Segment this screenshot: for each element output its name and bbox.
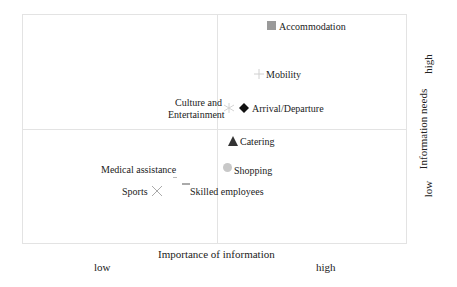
accommodation-label: Accommodation [279,21,346,32]
shopping-label: Shopping [234,165,272,176]
mobility-label: Mobility [266,69,301,80]
catering-label: Catering [240,136,274,147]
culture-label-line1: Culture and [175,97,222,108]
x-axis-low-tick: low [94,261,111,273]
sports-label: Sports [122,186,148,197]
arrival-diamond-marker [239,103,249,113]
medical-label: Medical assistance [101,164,176,175]
culture-label-line2: Entertainment [168,109,225,120]
sports-x-marker [152,186,162,196]
accommodation-square-marker [267,21,276,30]
mobility-plus-marker [254,69,264,79]
arrival-label: Arrival/Departure [252,103,324,114]
catering-triangle-marker [228,136,238,146]
y-axis-high-tick: high [422,49,434,79]
x-axis-high-tick: high [316,261,336,273]
horizontal-quadrant-line [22,129,407,130]
skilled-dash-marker [182,183,190,185]
y-axis-low-tick: low [422,174,434,204]
culture-star-marker [224,103,234,113]
x-axis-label: Importance of information [158,248,275,260]
skilled-label: Skilled employees [190,186,264,197]
medical-dash-marker [173,177,177,178]
shopping-circle-marker [223,163,232,172]
y-axis-label: Information needs [417,84,429,174]
